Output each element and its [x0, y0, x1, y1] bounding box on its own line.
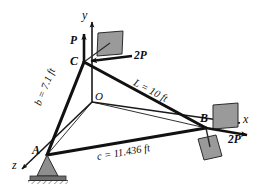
force-label-2p-at-b: 2P: [228, 134, 241, 146]
axis-label-x: x: [243, 113, 248, 125]
force-label-2p-at-c: 2P: [134, 50, 147, 62]
pin-support-at-a: [28, 155, 68, 184]
point-label-b: B: [200, 112, 208, 124]
figure-canvas: y x z O A B C P 2P 2P b = 7.1 ft L = 10 …: [0, 0, 259, 187]
axis-z: [22, 102, 92, 169]
axis-label-z: z: [12, 159, 17, 171]
axis-label-y: y: [82, 9, 87, 21]
plate-at-b-upper: [213, 103, 238, 129]
origin-label-o: O: [95, 91, 103, 102]
plate-at-b-lower: [198, 128, 222, 160]
force-2p-at-c-arrow: [91, 56, 132, 61]
force-label-p: P: [70, 35, 77, 47]
point-label-c: C: [70, 55, 78, 67]
point-label-a: A: [32, 144, 40, 156]
